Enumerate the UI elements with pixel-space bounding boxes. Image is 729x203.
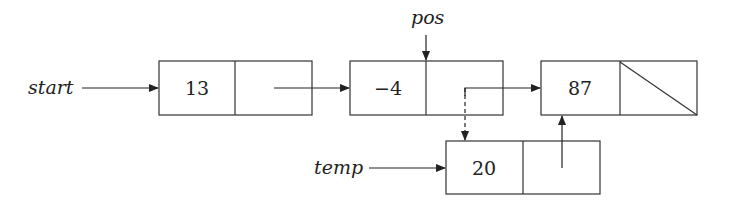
list-node-20: 20 [446, 116, 600, 194]
list-node-13: 13 [159, 61, 349, 115]
list-node-minus4: −4 [350, 61, 540, 140]
start-pointer: start [28, 76, 158, 98]
pos-pointer: pos [411, 6, 445, 60]
pos-label: pos [411, 6, 445, 28]
temp-pointer: temp [314, 156, 445, 178]
linked-list-diagram: start pos temp 13 −4 87 20 [0, 0, 729, 203]
temp-label: temp [314, 156, 363, 178]
list-node-87: 87 [541, 61, 697, 115]
node-value: 87 [568, 77, 592, 99]
node-value: 20 [472, 157, 496, 179]
start-label: start [28, 76, 74, 98]
node-box [541, 61, 697, 115]
node-value: −4 [374, 77, 402, 99]
node-value: 13 [185, 77, 209, 99]
